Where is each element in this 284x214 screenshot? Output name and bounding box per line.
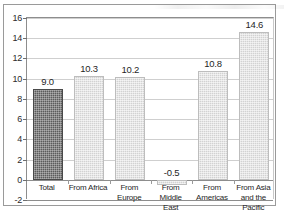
x-axis-label-from-middle-east: From Middle East (150, 183, 191, 213)
scan-noise-artifact (154, 5, 281, 9)
y-axis-tick-label: 6 (17, 114, 22, 124)
y-axis-tick-label: 12 (12, 53, 22, 63)
y-axis-tick-label: 0 (17, 175, 22, 185)
y-axis-tick-label: 14 (12, 33, 22, 43)
y-axis-tick-label: 4 (17, 134, 22, 144)
x-axis-label-from-europe: From Europe (109, 183, 150, 203)
bar-slot (234, 18, 275, 199)
y-axis-tick-label: 16 (12, 13, 22, 23)
y-axis-tick-label: 2 (17, 155, 22, 165)
bar-value-label: 10.3 (80, 63, 98, 74)
bar-value-label: -0.5 (164, 167, 180, 178)
y-axis-tick-label: 10 (12, 74, 22, 84)
bar-slot (110, 18, 151, 199)
bar-from-americas[interactable] (198, 71, 228, 180)
bar-value-label: 9.0 (41, 76, 54, 87)
bar-from-asia-and-the-pacific[interactable] (239, 32, 269, 180)
bar-total[interactable] (33, 89, 63, 180)
bar-value-label: 10.8 (204, 58, 222, 69)
y-tick-mark (23, 200, 27, 201)
bar-from-europe[interactable] (115, 77, 145, 180)
x-tick-mark (275, 180, 276, 184)
bar-value-label: 10.2 (121, 64, 139, 75)
bar-slot (68, 18, 109, 199)
bar-slot (192, 18, 233, 199)
bar-slot (27, 18, 68, 199)
chart-frame: 1614121086420-2 9.010.310.2-0.510.814.6 … (3, 4, 276, 206)
bar-value-label: 14.6 (245, 19, 263, 30)
x-axis-label-from-africa: From Africa (67, 183, 108, 193)
plot-area: 1614121086420-2 9.010.310.2-0.510.814.6 (26, 17, 274, 199)
y-axis-tick-label: 8 (17, 94, 22, 104)
x-axis-label-total: Total (26, 183, 67, 193)
x-axis-label-from-asia-and-the-pacific: From Asia and the Pacific (233, 183, 274, 213)
y-axis-tick-label: -2 (14, 195, 22, 205)
x-axis-label-from-americas: From Americas (191, 183, 232, 203)
bar-from-africa[interactable] (74, 76, 104, 180)
